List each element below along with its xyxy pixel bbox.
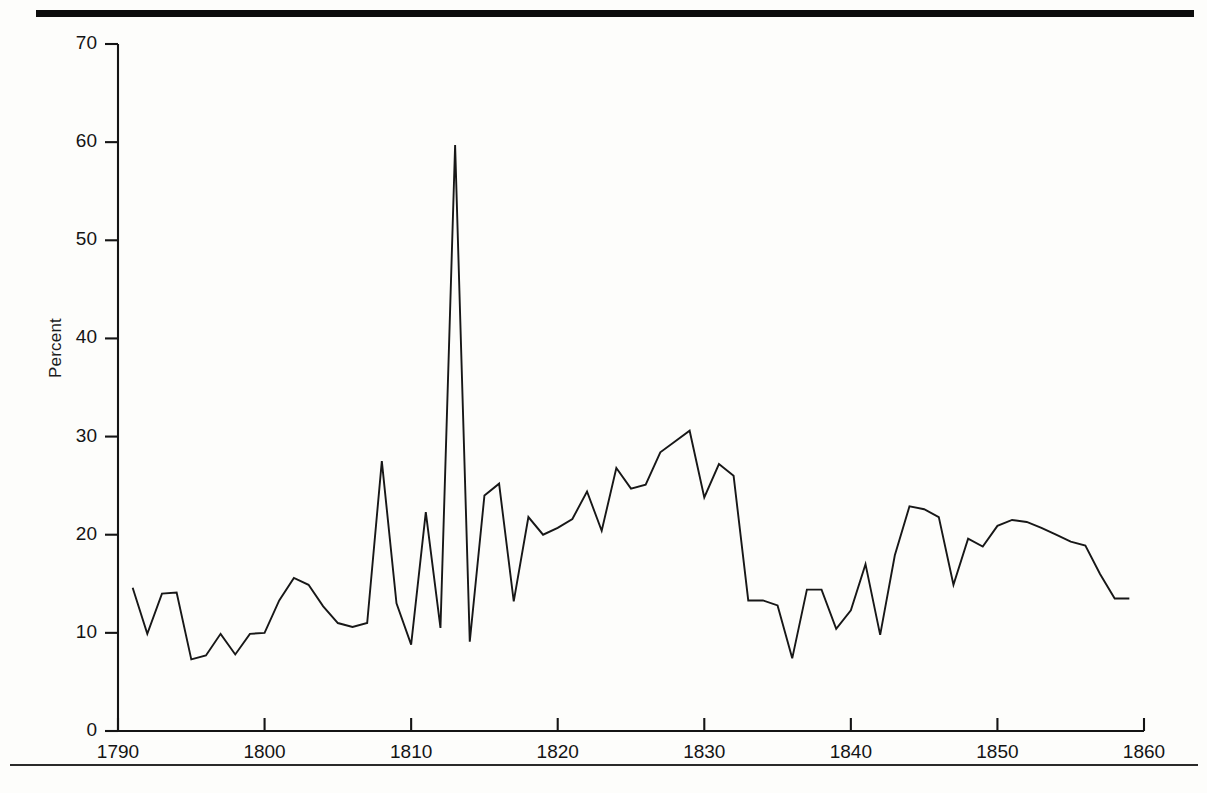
axes (105, 44, 1144, 731)
plot-area (0, 0, 1207, 793)
y-tick-marks (105, 44, 118, 731)
data-series-line (133, 145, 1130, 659)
line-chart: Percent 010203040506070 1790180018101820… (0, 0, 1207, 793)
figure-page: Percent 010203040506070 1790180018101820… (0, 0, 1207, 793)
x-tick-marks (118, 718, 1144, 731)
